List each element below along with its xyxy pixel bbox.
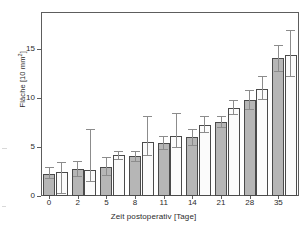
error-bar-line [106, 157, 107, 177]
error-bar-line [262, 76, 263, 100]
error-bar-cap-top [159, 136, 168, 137]
error-bar-cap-bottom [86, 181, 95, 182]
y-tick-label: 10 [1, 93, 35, 102]
error-bar-cap-top [57, 162, 66, 163]
error-bar [43, 167, 55, 179]
error-bar-cap-top [131, 151, 140, 152]
error-bar-cap-top [86, 129, 95, 130]
error-bar [199, 116, 211, 133]
error-bar-cap-top [217, 116, 226, 117]
error-bar-line [61, 162, 62, 194]
error-bar-cap-bottom [258, 99, 267, 100]
x-tick-label: 8 [120, 198, 150, 207]
error-bar [56, 162, 68, 194]
error-bar-cap-top [102, 157, 111, 158]
error-bar-cap-top [172, 113, 181, 114]
error-bar-cap-top [188, 129, 197, 130]
error-bar-cap-bottom [143, 155, 152, 156]
error-bar [228, 100, 240, 115]
error-bar-cap-top [45, 167, 54, 168]
x-axis-title: Zeit postoperativ [Tage] [0, 212, 307, 221]
error-bar-cap-bottom [102, 175, 111, 176]
bar [186, 137, 198, 196]
error-bar-cap-top [274, 45, 283, 46]
error-bar [256, 76, 268, 100]
error-bar-cap-top [73, 161, 82, 162]
error-bar-cap-top [200, 116, 209, 117]
bar [256, 89, 268, 196]
x-tick-label: 11 [149, 198, 179, 207]
x-tick-label: 21 [206, 198, 236, 207]
chart-figure: Fläche [10 mm2] Zeit postoperativ [Tage]… [0, 0, 307, 231]
error-bar [215, 116, 227, 128]
error-bar [186, 129, 198, 146]
y-tick-label: 15 [1, 44, 35, 53]
y-tick-mark [37, 147, 41, 148]
error-bar-cap-top [143, 116, 152, 117]
bar [272, 58, 284, 196]
error-bar [158, 136, 170, 151]
error-bar-cap-bottom [172, 147, 181, 148]
error-bar-cap-bottom [131, 161, 140, 162]
error-bar-cap-bottom [274, 71, 283, 72]
error-bar [113, 151, 125, 160]
y-tick-label: 5 [1, 142, 35, 151]
error-bar-line [249, 90, 250, 110]
error-bar-cap-top [245, 90, 254, 91]
error-bar-cap-bottom [159, 149, 168, 150]
y-tick-mark [37, 98, 41, 99]
error-bar [100, 157, 112, 177]
error-bar-cap-bottom [286, 76, 295, 77]
x-tick-label: 35 [263, 198, 293, 207]
x-tick-label: 28 [235, 198, 265, 207]
error-bar-line [77, 161, 78, 178]
error-bar-cap-bottom [229, 114, 238, 115]
error-bar-cap-bottom [57, 193, 66, 194]
y-tick-mark [37, 196, 41, 197]
error-bar-line [90, 129, 91, 182]
y-tick-label: 0 [1, 191, 35, 200]
error-bar-cap-bottom [114, 159, 123, 160]
error-bar [170, 113, 182, 148]
error-bar-line [147, 116, 148, 156]
y-axis-title: Fläche [10 mm2] [17, 19, 28, 139]
error-bar-line [233, 100, 234, 115]
error-bar-line [278, 45, 279, 71]
bar [244, 100, 256, 196]
error-bar [142, 116, 154, 156]
error-bar-line [192, 129, 193, 146]
error-bar-cap-bottom [188, 145, 197, 146]
x-tick-label: 0 [34, 198, 64, 207]
bar [215, 122, 227, 196]
x-tick-label: 2 [63, 198, 93, 207]
scan-artifact [2, 206, 6, 207]
error-bar [72, 161, 84, 178]
bar [228, 108, 240, 196]
error-bar-cap-bottom [73, 176, 82, 177]
error-bar-cap-bottom [217, 127, 226, 128]
error-bar-cap-top [286, 30, 295, 31]
error-bar-line [176, 113, 177, 148]
error-bar-cap-bottom [200, 132, 209, 133]
error-bar [285, 30, 297, 77]
error-bar [129, 151, 141, 162]
bar [199, 125, 211, 196]
error-bar-cap-top [258, 76, 267, 77]
error-bar-line [163, 136, 164, 151]
error-bar-line [290, 30, 291, 77]
error-bar-cap-top [114, 151, 123, 152]
error-bar [244, 90, 256, 110]
y-tick-mark [37, 49, 41, 50]
x-tick-label: 5 [91, 198, 121, 207]
bar [113, 155, 125, 196]
error-bar-line [204, 116, 205, 133]
error-bar-cap-top [229, 100, 238, 101]
error-bar-cap-bottom [45, 178, 54, 179]
bar [158, 143, 170, 196]
error-bar-cap-bottom [245, 109, 254, 110]
bar [129, 156, 141, 196]
x-tick-label: 14 [177, 198, 207, 207]
error-bar [84, 129, 96, 182]
error-bar [272, 45, 284, 71]
